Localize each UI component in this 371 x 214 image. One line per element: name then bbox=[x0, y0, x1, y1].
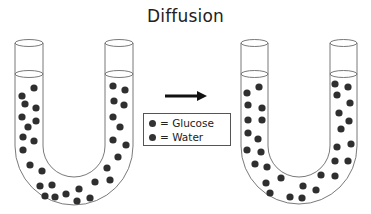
molecule-dot bbox=[75, 185, 82, 192]
molecule-dot bbox=[110, 97, 117, 104]
legend-item-glucose: = Glucose bbox=[149, 116, 214, 130]
molecule-dot bbox=[48, 181, 55, 188]
molecule-dot bbox=[333, 91, 340, 98]
molecule-dot bbox=[86, 194, 93, 201]
molecule-dot bbox=[251, 160, 258, 167]
water-dot-icon bbox=[149, 134, 156, 141]
molecule-dot bbox=[120, 101, 127, 108]
molecule-dot bbox=[109, 113, 116, 120]
molecule-dot bbox=[258, 116, 265, 123]
molecule-dot bbox=[32, 117, 39, 124]
molecule-dot bbox=[30, 137, 37, 144]
molecule-dot bbox=[51, 193, 58, 200]
molecule-dot bbox=[106, 176, 113, 183]
molecule-dot bbox=[19, 146, 26, 153]
molecule-dot bbox=[244, 129, 251, 136]
molecule-dot bbox=[344, 83, 351, 90]
molecule-dot bbox=[317, 171, 324, 178]
legend-label-glucose: = Glucose bbox=[160, 117, 214, 129]
molecule-dot bbox=[263, 163, 270, 170]
molecule-dot bbox=[347, 140, 354, 147]
legend-item-water: = Water bbox=[149, 130, 203, 144]
molecule-dot bbox=[298, 194, 305, 201]
molecules-after bbox=[243, 80, 354, 201]
molecule-dot bbox=[243, 89, 250, 96]
molecule-dot bbox=[19, 133, 26, 140]
molecule-dot bbox=[26, 161, 33, 168]
molecule-dot bbox=[286, 193, 293, 200]
molecule-dot bbox=[122, 141, 129, 148]
molecule-dot bbox=[331, 157, 338, 164]
molecule-dot bbox=[32, 104, 39, 111]
molecule-dot bbox=[103, 164, 110, 171]
molecule-dot bbox=[346, 99, 353, 106]
molecule-dot bbox=[21, 100, 28, 107]
molecule-dot bbox=[255, 83, 262, 90]
molecule-dot bbox=[243, 146, 250, 153]
molecule-dot bbox=[331, 80, 338, 87]
molecule-dot bbox=[331, 172, 338, 179]
molecule-dot bbox=[244, 116, 251, 123]
molecule-dot bbox=[18, 92, 25, 99]
molecule-dot bbox=[299, 182, 306, 189]
molecule-dot bbox=[277, 174, 284, 181]
molecule-dot bbox=[266, 189, 273, 196]
molecule-dot bbox=[335, 109, 342, 116]
legend: = Glucose = Water bbox=[143, 113, 231, 146]
molecule-dot bbox=[73, 197, 80, 204]
arrow-right-icon bbox=[165, 91, 207, 101]
molecule-dot bbox=[109, 82, 116, 89]
legend-label-water: = Water bbox=[160, 131, 203, 143]
molecule-dot bbox=[254, 135, 261, 142]
glucose-dot-icon bbox=[149, 120, 156, 127]
molecule-dot bbox=[114, 153, 121, 160]
molecule-dot bbox=[116, 123, 123, 130]
molecule-dot bbox=[337, 125, 344, 132]
molecule-dot bbox=[345, 117, 352, 124]
molecule-dot bbox=[244, 101, 251, 108]
molecule-dot bbox=[258, 104, 265, 111]
molecule-dot bbox=[62, 190, 69, 197]
molecule-dot bbox=[121, 86, 128, 93]
molecule-dot bbox=[109, 136, 116, 143]
diffusion-diagram bbox=[0, 0, 371, 214]
molecule-dot bbox=[30, 84, 37, 91]
u-tube-after bbox=[241, 40, 357, 205]
molecule-dot bbox=[262, 179, 269, 186]
molecule-dot bbox=[24, 123, 31, 130]
molecule-dot bbox=[18, 113, 25, 120]
molecule-dot bbox=[257, 148, 264, 155]
molecule-dot bbox=[38, 167, 45, 174]
molecules-before bbox=[18, 82, 129, 204]
molecule-dot bbox=[91, 178, 98, 185]
molecule-dot bbox=[333, 143, 340, 150]
molecule-dot bbox=[36, 182, 43, 189]
molecule-dot bbox=[344, 157, 351, 164]
molecule-dot bbox=[41, 192, 48, 199]
molecule-dot bbox=[312, 186, 319, 193]
